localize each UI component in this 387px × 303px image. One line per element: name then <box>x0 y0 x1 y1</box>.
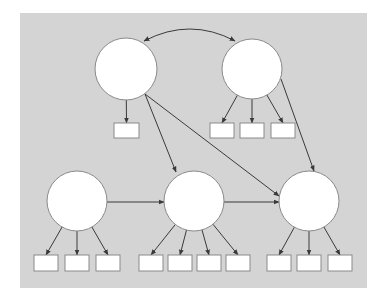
latent-variable-node <box>279 171 339 231</box>
latent-variable-node <box>222 39 282 99</box>
latent-variable-node <box>95 38 157 100</box>
indicator-box <box>271 123 295 138</box>
indicator-box <box>139 255 163 271</box>
indicator-box <box>267 255 291 271</box>
indicator-box <box>168 255 192 271</box>
path-diagram <box>0 0 387 303</box>
indicator-box <box>114 123 139 138</box>
latent-variable-node <box>164 171 224 231</box>
indicator-box <box>226 255 250 271</box>
indicator-box <box>240 123 264 138</box>
indicator-box <box>328 255 352 271</box>
indicator-box <box>197 255 221 271</box>
indicator-box <box>65 255 89 271</box>
indicator-box <box>34 255 58 271</box>
latent-variable-node <box>47 171 107 231</box>
diagram-panel <box>20 13 367 288</box>
indicator-box <box>297 255 321 271</box>
indicator-box <box>210 123 234 138</box>
indicator-box <box>96 255 120 271</box>
